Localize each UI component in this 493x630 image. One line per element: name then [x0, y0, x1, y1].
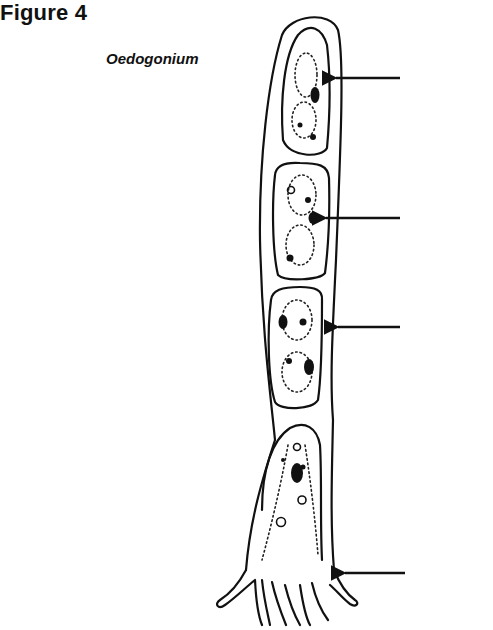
third-cell-outline — [269, 287, 322, 408]
apical-cell-outline — [282, 28, 330, 155]
oedogonium-diagram — [0, 0, 493, 630]
rhizoids — [217, 570, 357, 625]
second-cell-outline — [273, 163, 329, 280]
holdfast-cell-outline — [262, 425, 322, 560]
